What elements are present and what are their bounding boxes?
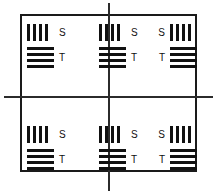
- bar: [99, 53, 126, 56]
- bar: [27, 161, 54, 164]
- bar: [27, 167, 54, 170]
- bar-group-labels-bottom-center: S T: [126, 126, 143, 170]
- bar: [170, 47, 197, 50]
- bar: [176, 24, 179, 41]
- bar: [39, 24, 42, 41]
- bar: [170, 161, 197, 164]
- bar-group-labels-top-left: S T: [54, 24, 71, 68]
- bar: [27, 65, 54, 68]
- sagittal-label: S: [158, 24, 165, 41]
- bar: [99, 161, 126, 164]
- bar: [170, 59, 197, 62]
- bar: [188, 24, 191, 41]
- horizontal-bars-tangential-icon: [27, 149, 54, 170]
- sagittal-label: S: [131, 24, 138, 41]
- bar-group-labels-bottom-right: S T: [153, 126, 170, 170]
- bar-patterns-top-left: [27, 24, 54, 68]
- tangential-label: T: [131, 149, 138, 170]
- bar: [170, 149, 197, 152]
- sagittal-label: S: [131, 126, 138, 143]
- bar: [188, 126, 191, 143]
- bar: [99, 47, 126, 50]
- bar: [111, 24, 114, 41]
- bar-group-top-right: S T: [143, 24, 197, 68]
- bar: [99, 59, 126, 62]
- bar: [105, 24, 108, 41]
- bar: [182, 24, 185, 41]
- bar: [170, 24, 173, 41]
- bar: [99, 126, 102, 143]
- bar: [182, 126, 185, 143]
- bar: [170, 53, 197, 56]
- bar-patterns-bottom-left: [27, 126, 54, 170]
- bar-patterns-top-right: [170, 24, 197, 68]
- bar: [170, 155, 197, 158]
- sagittal-label: S: [59, 126, 66, 143]
- crosshair-horizontal-line: [4, 96, 213, 98]
- bar: [33, 126, 36, 143]
- vertical-bars-sagittal-icon: [99, 126, 126, 143]
- bar-group-top-center: S T: [99, 24, 143, 68]
- bar: [45, 24, 48, 41]
- bar: [33, 24, 36, 41]
- bar: [27, 47, 54, 50]
- horizontal-bars-tangential-icon: [99, 149, 126, 170]
- bar-group-labels-bottom-left: S T: [54, 126, 71, 170]
- bar: [39, 126, 42, 143]
- vertical-bars-sagittal-icon: [170, 24, 197, 41]
- tangential-label: T: [131, 47, 138, 68]
- horizontal-bars-tangential-icon: [27, 47, 54, 68]
- bar: [27, 149, 54, 152]
- vertical-bars-sagittal-icon: [27, 126, 54, 143]
- bar-group-bottom-left: S T: [27, 126, 71, 170]
- bar-group-bottom-right: S T: [143, 126, 197, 170]
- horizontal-bars-tangential-icon: [170, 149, 197, 170]
- bar: [117, 126, 120, 143]
- tangential-label: T: [59, 47, 66, 68]
- bar-group-top-left: S T: [27, 24, 71, 68]
- bar: [111, 126, 114, 143]
- bar: [117, 24, 120, 41]
- bar-group-bottom-center: S T: [99, 126, 143, 170]
- bar: [27, 53, 54, 56]
- bar-group-labels-top-right: S T: [153, 24, 170, 68]
- bar: [27, 24, 30, 41]
- bar-patterns-top-center: [99, 24, 126, 68]
- bar: [99, 167, 126, 170]
- tangential-label: T: [59, 149, 66, 170]
- tangential-label: T: [159, 47, 165, 68]
- resolution-test-target-figure: S T S T: [0, 0, 217, 194]
- sagittal-label: S: [59, 24, 66, 41]
- bar: [99, 24, 102, 41]
- vertical-bars-sagittal-icon: [99, 24, 126, 41]
- bar-patterns-bottom-center: [99, 126, 126, 170]
- bar: [45, 126, 48, 143]
- bar: [105, 126, 108, 143]
- bar: [176, 126, 179, 143]
- vertical-bars-sagittal-icon: [27, 24, 54, 41]
- bar: [27, 126, 30, 143]
- vertical-bars-sagittal-icon: [170, 126, 197, 143]
- bar: [99, 149, 126, 152]
- sagittal-label: S: [158, 126, 165, 143]
- bar: [27, 155, 54, 158]
- bar: [170, 167, 197, 170]
- bar-patterns-bottom-right: [170, 126, 197, 170]
- horizontal-bars-tangential-icon: [99, 47, 126, 68]
- bar: [99, 65, 126, 68]
- horizontal-bars-tangential-icon: [170, 47, 197, 68]
- bar: [170, 126, 173, 143]
- bar-group-labels-top-center: S T: [126, 24, 143, 68]
- bar: [99, 155, 126, 158]
- tangential-label: T: [159, 149, 165, 170]
- bar: [170, 65, 197, 68]
- bar: [27, 59, 54, 62]
